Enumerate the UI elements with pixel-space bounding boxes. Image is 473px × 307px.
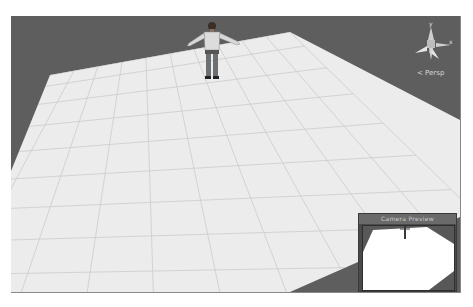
gizmo-center-cube[interactable]: [427, 40, 435, 48]
camera-preview-panel: Camera Preview: [358, 213, 457, 292]
gizmo-neg-x-cone-icon[interactable]: [415, 46, 427, 53]
scene-orientation-gizmo[interactable]: y x: [409, 18, 459, 88]
preview-ground-plane: [363, 227, 454, 290]
scene-view[interactable]: y x < Persp Camera Preview: [11, 16, 461, 293]
projection-toggle[interactable]: < Persp: [417, 69, 444, 77]
gizmo-y-axis-icon[interactable]: [428, 27, 434, 40]
gizmo-x-label: x: [449, 38, 453, 45]
gizmo-y-label: y: [429, 20, 433, 28]
camera-preview-viewport: [362, 225, 455, 291]
camera-preview-title: Camera Preview: [359, 214, 456, 224]
